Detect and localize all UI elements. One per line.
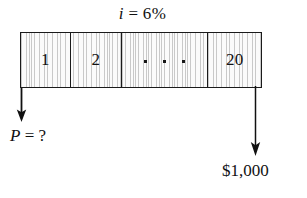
present-worth-label: P = ? bbox=[10, 126, 46, 146]
period-cell-2: 2 bbox=[71, 33, 123, 87]
period-cell-ellipsis bbox=[122, 33, 208, 87]
present-worth-symbol: P bbox=[10, 126, 20, 145]
present-worth-arrow-icon bbox=[13, 88, 30, 122]
period-cell-20-label: 20 bbox=[226, 51, 243, 68]
period-cell-2-label: 2 bbox=[92, 51, 101, 68]
present-worth-value: = ? bbox=[25, 126, 46, 145]
period-cell-1: 1 bbox=[21, 33, 71, 87]
interest-rate-value: = 6% bbox=[128, 4, 166, 23]
period-cell-20: 20 bbox=[208, 33, 261, 87]
future-amount-arrow-icon bbox=[246, 86, 265, 156]
interest-rate-label: i = 6% bbox=[0, 4, 285, 24]
ellipsis-dots-icon bbox=[144, 60, 185, 63]
future-amount-label: $1,000 bbox=[222, 161, 269, 181]
period-cell-1-label: 1 bbox=[41, 51, 50, 68]
period-bar: 1 2 20 bbox=[20, 32, 262, 88]
cash-flow-diagram: i = 6% 1 2 20 P = ? $1,000 bbox=[0, 0, 307, 198]
